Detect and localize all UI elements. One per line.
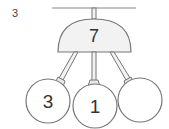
rod-right [110,52,130,80]
rod-left [59,52,78,80]
rod-middle [92,52,96,81]
part-circle-right[interactable] [118,78,162,122]
rods [59,52,130,81]
whole-value: 7 [89,26,99,46]
part-value-left: 3 [43,91,54,112]
stem [92,8,96,19]
number-bond-diagram: 7 3 1 [0,0,169,129]
part-value-middle: 1 [90,96,101,117]
